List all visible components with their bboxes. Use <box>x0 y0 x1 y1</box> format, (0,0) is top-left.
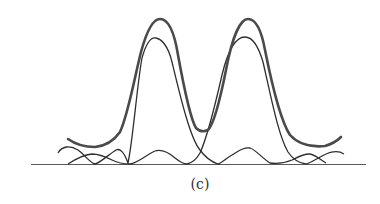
figure-caption: (c) <box>0 176 380 192</box>
combined-envelope-curve <box>68 19 341 147</box>
component-left-curve <box>58 38 326 164</box>
diffraction-figure: (c) <box>0 0 380 204</box>
diffraction-plot <box>0 0 380 204</box>
